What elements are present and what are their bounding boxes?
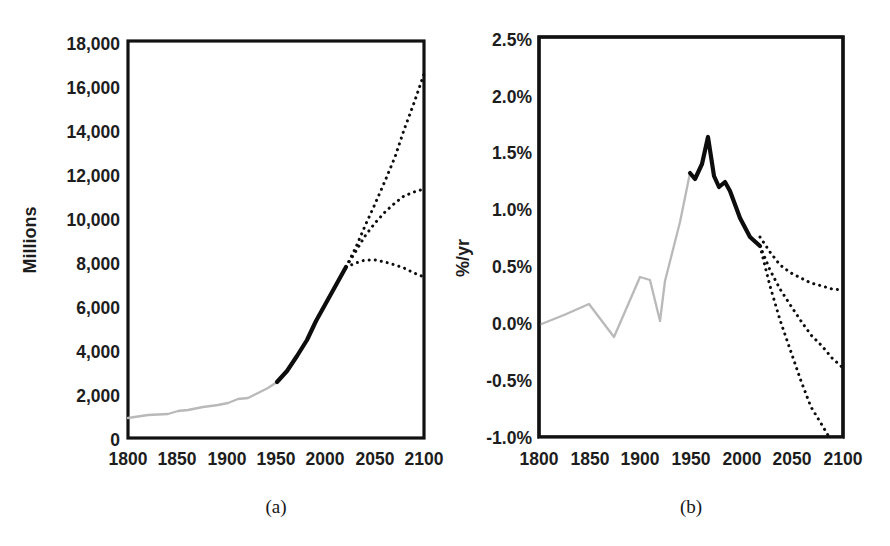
series-projection-high-a	[346, 74, 424, 267]
chart-b-y-axis-title: %/yr	[453, 239, 473, 277]
chart-b-x-tick-labels: 1800 1850 1900 1950 2000 2050 2100	[520, 449, 863, 469]
series-projection-medium-b	[760, 246, 843, 368]
series-projection-high-b	[760, 237, 843, 290]
chart-b-plot-frame	[539, 37, 843, 437]
chart-b-series-group	[539, 137, 843, 457]
x-tick-label: 2050	[773, 449, 812, 469]
series-projection-low-a	[346, 260, 424, 277]
series-historical-a	[128, 382, 277, 418]
y-tick-label: 1.0%	[492, 200, 532, 220]
y-tick-label: 2.0%	[492, 87, 532, 107]
y-tick-label: 14,000	[66, 122, 120, 142]
x-tick-label: 1800	[520, 449, 559, 469]
y-tick-label: 2,000	[76, 386, 120, 406]
y-tick-label: 0	[110, 430, 120, 450]
x-tick-label: 2050	[356, 449, 395, 469]
series-projection-low-b	[760, 246, 843, 457]
population-figure: 18,000 16,000 14,000 12,000 10,000 8,000…	[0, 0, 890, 546]
chart-a-plot-frame	[128, 41, 424, 438]
chart-b-y-tick-labels: 2.5% 2.0% 1.5% 1.0% 0.5% 0.0% -0.5% -1.0…	[486, 30, 532, 448]
x-tick-label: 2000	[306, 449, 345, 469]
series-recent-b	[690, 137, 760, 246]
x-tick-label: 1850	[158, 449, 197, 469]
chart-panel-b: 2.5% 2.0% 1.5% 1.0% 0.5% 0.0% -0.5% -1.0…	[445, 0, 890, 546]
y-tick-label: -1.0%	[486, 428, 532, 448]
chart-a-y-tick-labels: 18,000 16,000 14,000 12,000 10,000 8,000…	[66, 34, 120, 450]
chart-a-series-group	[128, 74, 424, 418]
chart-a-svg: 18,000 16,000 14,000 12,000 10,000 8,000…	[0, 0, 445, 546]
x-tick-label: 2000	[723, 449, 762, 469]
y-tick-label: 12,000	[66, 166, 120, 186]
series-recent-a	[277, 267, 346, 382]
chart-a-caption: (a)	[265, 496, 286, 518]
x-tick-label: 1950	[672, 449, 711, 469]
chart-a-y-axis-title: Millions	[20, 207, 40, 274]
x-tick-label: 1800	[109, 449, 148, 469]
y-tick-label: 6,000	[76, 298, 120, 318]
x-tick-label: 2100	[405, 449, 444, 469]
y-tick-label: 2.5%	[492, 30, 532, 50]
y-tick-label: 1.5%	[492, 143, 532, 163]
chart-panel-a: 18,000 16,000 14,000 12,000 10,000 8,000…	[0, 0, 445, 546]
x-tick-label: 1850	[571, 449, 610, 469]
x-tick-label: 1900	[208, 449, 247, 469]
series-historical-b	[539, 173, 690, 337]
x-tick-label: 1900	[621, 449, 660, 469]
y-tick-label: 0.0%	[492, 314, 532, 334]
y-tick-label: 8,000	[76, 254, 120, 274]
chart-b-svg: 2.5% 2.0% 1.5% 1.0% 0.5% 0.0% -0.5% -1.0…	[445, 0, 890, 546]
y-tick-label: 4,000	[76, 342, 120, 362]
y-tick-label: 10,000	[66, 210, 120, 230]
y-tick-label: 18,000	[66, 34, 120, 54]
y-tick-label: 16,000	[66, 78, 120, 98]
chart-b-caption: (b)	[680, 496, 702, 518]
x-tick-label: 1950	[257, 449, 296, 469]
series-projection-medium-a	[346, 189, 424, 267]
y-tick-label: -0.5%	[486, 371, 532, 391]
y-tick-label: 0.5%	[492, 257, 532, 277]
chart-a-x-tick-labels: 1800 1850 1900 1950 2000 2050 2100	[109, 449, 444, 469]
chart-b-plot-frame-top	[539, 37, 843, 437]
x-tick-label: 2100	[824, 449, 863, 469]
